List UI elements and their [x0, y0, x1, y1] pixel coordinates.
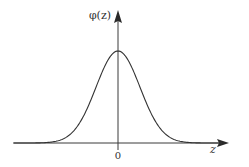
- x-axis-label: z: [209, 143, 216, 156]
- normal-distribution-figure: φ(z) z 0: [0, 0, 249, 167]
- origin-tick-label: 0: [115, 150, 121, 161]
- y-axis-label: φ(z): [89, 9, 111, 22]
